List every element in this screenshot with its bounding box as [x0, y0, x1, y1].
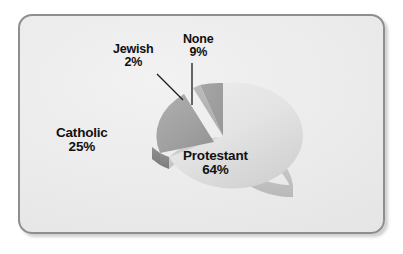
- pie-label-none-name: None: [183, 33, 213, 46]
- pie-chart: Jewish 2% None 9% Catholic 25% Protestan…: [20, 16, 385, 234]
- screenshot-root: Jewish 2% None 9% Catholic 25% Protestan…: [0, 0, 403, 254]
- pie-label-none-value: 9%: [183, 46, 213, 59]
- pie-label-catholic: Catholic 25%: [56, 126, 108, 155]
- pie-label-none: None 9%: [183, 33, 213, 60]
- pie-label-protestant-value: 64%: [183, 163, 248, 177]
- pie-label-protestant-name: Protestant: [183, 149, 248, 163]
- pie-label-jewish: Jewish 2%: [113, 43, 154, 70]
- pie-label-catholic-name: Catholic: [56, 126, 108, 140]
- chart-frame: Jewish 2% None 9% Catholic 25% Protestan…: [18, 14, 385, 234]
- pie-label-protestant: Protestant 64%: [183, 149, 248, 178]
- pie-label-jewish-name: Jewish: [113, 43, 154, 56]
- pie-label-jewish-value: 2%: [113, 56, 154, 69]
- pie-label-catholic-value: 25%: [56, 140, 108, 154]
- leader-line-jewish: [157, 74, 183, 100]
